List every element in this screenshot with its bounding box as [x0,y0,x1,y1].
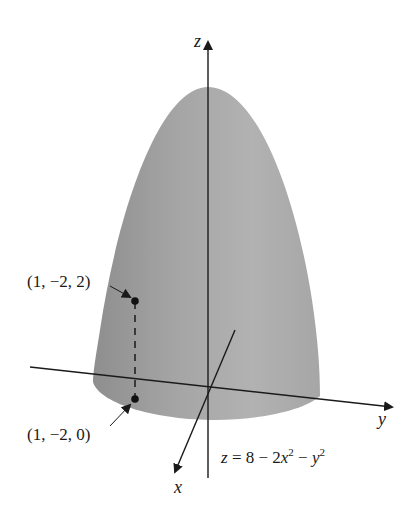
surface-equation: z = 8 − 2x2 − y2 [221,447,325,466]
leader-arrow-lower [110,405,130,426]
z-axis-label: z [194,32,201,50]
equation-minus: − [294,448,312,467]
equation-var-y: y [312,448,320,467]
y-axis-label: y [378,410,386,428]
equation-lhs: z [221,448,228,467]
point-upper [131,297,139,305]
paraboloid-diagram: z y x (1, −2, 2) (1, −2, 0) z = 8 − 2x2 … [0,0,416,515]
point-label-upper: (1, −2, 2) [27,273,90,290]
equation-exp-y: 2 [320,446,326,458]
equation-rhs-prefix: = 8 − 2 [232,448,281,467]
point-label-lower: (1, −2, 0) [27,426,90,443]
paraboloid-surface [93,87,320,420]
point-lower [131,395,139,403]
x-axis-label: x [174,478,182,496]
